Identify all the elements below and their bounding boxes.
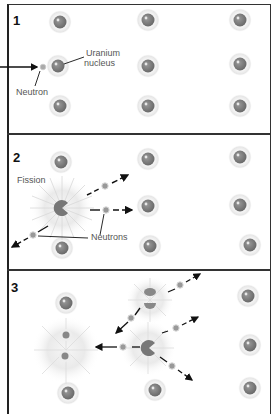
panel-2-number: 2: [13, 150, 20, 165]
panel-1: [0, 8, 252, 118]
uranium-nucleus-label-line2: nucleus: [84, 58, 115, 68]
neutrons-label: Neutrons: [91, 232, 128, 242]
panel-1-number: 1: [13, 13, 20, 28]
neutron-label: Neutron: [16, 87, 48, 97]
fission-label: Fission: [17, 175, 46, 185]
panel-3-number: 3: [11, 280, 18, 295]
panel-2: [12, 145, 262, 260]
uranium-nucleus-label-line1: Uranium: [86, 48, 120, 58]
fission-blast-left: [32, 316, 100, 384]
panel-3: [32, 274, 262, 405]
fission-blast-lower: [120, 320, 176, 376]
